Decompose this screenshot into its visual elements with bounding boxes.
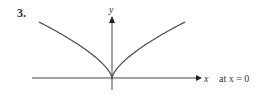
problem-number: 3.	[17, 6, 26, 20]
y-axis-label: y	[108, 4, 114, 15]
annotation: at x = 0	[219, 73, 249, 84]
y-axis-arrow-icon	[109, 16, 115, 23]
x-axis-label: x	[203, 73, 209, 84]
figure: 3. x at x = 0 y	[0, 0, 261, 98]
x-axis-arrow-icon	[196, 75, 202, 81]
